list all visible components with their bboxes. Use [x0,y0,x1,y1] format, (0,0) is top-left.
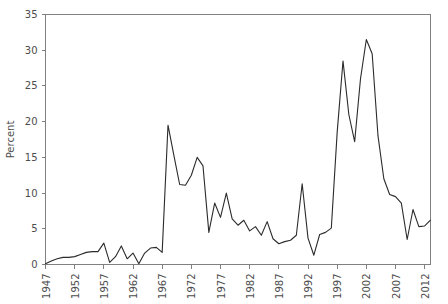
plot-area [46,15,431,265]
y-tick-label: 0 [31,259,37,270]
y-axis-title: Percent [5,121,16,159]
x-tick-label: 1962 [128,274,139,299]
line-chart-canvas: 05101520253035 1947195219571962196719721… [0,0,448,304]
y-tick-label: 10 [25,188,38,199]
x-tick-label: 1997 [332,274,343,299]
x-tick-label: 1972 [186,274,197,299]
y-tick-label: 20 [25,116,38,127]
x-tick-label: 2002 [361,274,372,299]
data-series-line [46,40,431,264]
x-tick-label: 1977 [216,274,227,299]
x-tick-label: 1952 [70,274,81,299]
y-tick-label: 35 [25,9,38,20]
x-tick-label: 2007 [391,274,402,299]
chart-figure: 05101520253035 1947195219571962196719721… [0,0,448,304]
y-tick-label: 5 [31,223,37,234]
x-tick-label: 1982 [245,274,256,299]
x-tick-label: 1957 [99,274,110,299]
y-axis: 05101520253035 [25,9,46,270]
y-tick-label: 25 [25,80,38,91]
x-tick-label: 2012 [420,274,431,299]
y-tick-label: 15 [25,152,38,163]
y-tick-label: 30 [25,45,38,56]
x-axis: 1947195219571962196719721977198219871992… [41,265,431,299]
x-tick-label: 1992 [303,274,314,299]
x-tick-label: 1947 [41,274,52,299]
x-tick-label: 1987 [274,274,285,299]
axis-titles: Percent [5,121,16,159]
x-tick-label: 1967 [157,274,168,299]
